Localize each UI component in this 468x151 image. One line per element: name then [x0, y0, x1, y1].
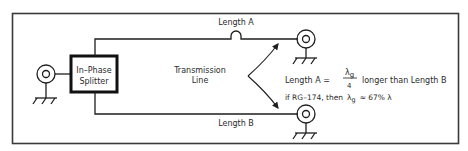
- formula: Length A = λg 4 longer than Length B: [285, 68, 446, 90]
- arrow-to-length-a: [248, 44, 278, 76]
- output-connector-a-icon: [293, 30, 317, 64]
- arrow-to-length-b: [248, 76, 278, 108]
- formula-numerator: λg: [345, 68, 354, 79]
- transmission-label-line2: Line: [192, 76, 209, 85]
- ground-icon: [33, 98, 57, 104]
- ground-icon: [293, 133, 317, 139]
- diagram-canvas: In–Phase Splitter Length A Length B Tran…: [0, 0, 468, 151]
- length-a-line: [95, 31, 298, 56]
- ground-icon: [293, 58, 317, 64]
- note-text: if RG–174, thenλg≈ 67% λ: [285, 93, 392, 104]
- output-connector-b-icon: [293, 105, 317, 139]
- note: if RG–174, thenλg≈ 67% λ: [285, 93, 392, 104]
- length-a-label: Length A: [218, 18, 254, 27]
- length-b-label: Length B: [218, 119, 254, 128]
- formula-denominator: 4: [347, 82, 352, 90]
- transmission-label-line1: Transmission: [173, 66, 226, 75]
- formula-suffix: longer than Length B: [362, 76, 446, 85]
- formula-prefix: Length A =: [285, 76, 330, 85]
- splitter-label-line2: Splitter: [79, 77, 109, 86]
- input-connector-icon: [33, 65, 70, 104]
- splitter-label-line1: In–Phase: [76, 66, 111, 75]
